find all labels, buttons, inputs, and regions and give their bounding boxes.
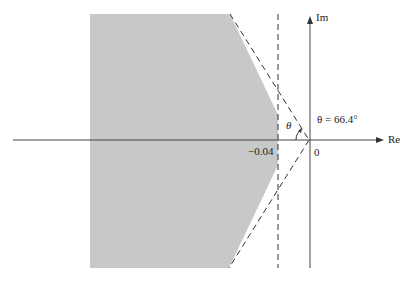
s-plane-diagram — [0, 0, 409, 281]
origin-label: 0 — [314, 146, 320, 158]
theta-symbol: θ — [286, 119, 291, 131]
imag-axis-label: Im — [316, 11, 328, 23]
theta-equation: θ = 66.4° — [317, 113, 358, 125]
real-axis-arrow-icon — [376, 137, 384, 143]
real-axis-label: Re — [388, 133, 400, 145]
shaded-region — [90, 14, 278, 268]
sigma-label: −0.04 — [248, 145, 273, 157]
imag-axis-arrow-icon — [307, 16, 313, 24]
